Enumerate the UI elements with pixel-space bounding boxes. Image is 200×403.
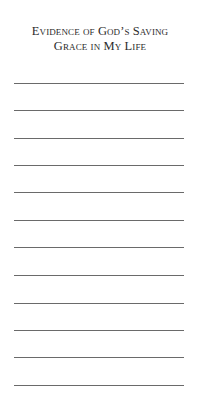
writing-line [14, 138, 184, 139]
writing-line [14, 385, 184, 386]
writing-line [14, 357, 184, 358]
writing-line [14, 83, 184, 84]
writing-line [14, 275, 184, 276]
writing-line [14, 247, 184, 248]
writing-line [14, 303, 184, 304]
page-title: Evidence of God’s Saving Grace in My Lif… [0, 24, 200, 54]
writing-line [14, 192, 184, 193]
writing-line [14, 165, 184, 166]
writing-line [14, 330, 184, 331]
page-title-line-1: Evidence of God’s Saving [0, 24, 200, 39]
writing-line [14, 110, 184, 111]
writing-line [14, 220, 184, 221]
page-title-line-2: Grace in My Life [0, 39, 200, 54]
